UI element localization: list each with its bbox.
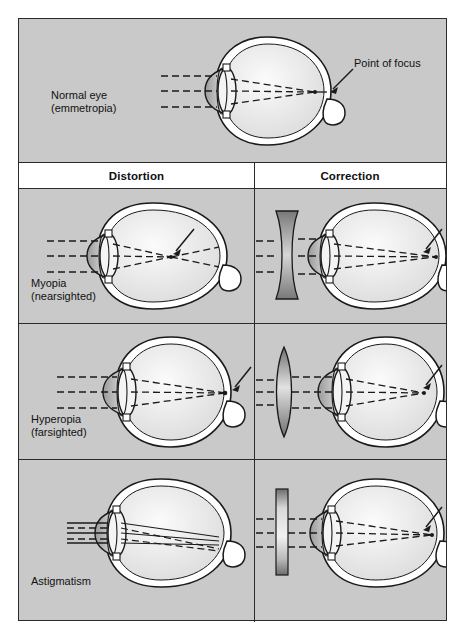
optic-nerve — [223, 541, 245, 567]
astigmatism-distortion-cell — [19, 461, 254, 622]
row-label-myopia-line1: Myopia — [31, 277, 66, 289]
panel-normal-eye: Normal eye (emmetropia) Point of focus — [19, 19, 446, 162]
astigmatism-distortion-diagram — [19, 461, 254, 622]
row-label-astigmatism-line1: Astigmatism — [31, 575, 91, 587]
ciliary-body-bottom — [123, 414, 130, 421]
row-label-myopia-line2: (nearsighted) — [31, 290, 96, 302]
convex-corrective-lens — [277, 347, 292, 437]
row-label-normal-line1: Normal eye — [51, 89, 107, 101]
hyperopia-correction-cell — [254, 325, 446, 459]
optic-nerve — [219, 265, 241, 291]
column-header-correction: Correction — [254, 163, 446, 188]
row-label-normal: Normal eye (emmetropia) — [51, 89, 116, 115]
myopia-distortion-diagram — [19, 189, 254, 324]
ciliary-body-top — [223, 64, 230, 71]
row-label-myopia: Myopia (nearsighted) — [31, 277, 96, 303]
ciliary-body-top — [328, 506, 335, 513]
focal-point-marker — [223, 391, 228, 396]
column-header-band: Distortion Correction — [19, 162, 446, 189]
astigmatism-correction-cell — [254, 461, 446, 622]
column-header-distortion: Distortion — [19, 163, 254, 188]
focal-point-marker — [313, 90, 317, 94]
row-label-hyperopia: Hyperopia (farsighted) — [31, 413, 87, 439]
point-of-focus-arrow — [330, 69, 353, 94]
ciliary-body-bottom — [328, 553, 335, 560]
panel-astigmatism: Astigmatism — [19, 461, 446, 622]
vitreous-body — [105, 210, 220, 302]
row-label-normal-line2: (emmetropia) — [51, 102, 116, 114]
vitreous-body — [123, 344, 224, 440]
focus-indicator-arrow — [232, 367, 251, 392]
row-label-hyperopia-line2: (farsighted) — [31, 426, 87, 438]
myopia-correction-arrow — [254, 189, 446, 324]
panel-myopia: Myopia (nearsighted) — [19, 189, 446, 324]
ciliary-body-top — [113, 506, 120, 513]
astigmatism-correction-diagram — [254, 461, 446, 622]
ciliary-body-bottom — [338, 414, 345, 421]
refractive-error-figure: Normal eye (emmetropia) Point of focus — [18, 18, 447, 621]
focal-point-marker — [430, 533, 434, 537]
point-of-focus-label: Point of focus — [354, 57, 421, 69]
cylindrical-corrective-lens — [276, 489, 288, 575]
vitreous-body — [328, 486, 437, 580]
ciliary-body-bottom — [105, 276, 112, 283]
row-label-astigmatism: Astigmatism — [31, 575, 91, 588]
ciliary-body-top — [123, 363, 130, 370]
row-label-hyperopia-line1: Hyperopia — [31, 413, 81, 425]
focal-point-marker — [422, 391, 426, 395]
ciliary-body-top — [338, 363, 345, 370]
hyperopia-correction-diagram — [254, 325, 446, 460]
hyperopia-distortion-diagram — [19, 325, 254, 460]
panel-hyperopia: Hyperopia (farsighted) — [19, 325, 446, 460]
ciliary-body-bottom — [223, 111, 230, 118]
ciliary-body-bottom — [113, 553, 120, 560]
ciliary-body-top — [105, 230, 112, 237]
optic-nerve — [323, 99, 345, 125]
focal-point-marker — [169, 255, 173, 259]
optic-nerve — [223, 401, 245, 427]
myopia-correction-cell — [254, 189, 446, 323]
